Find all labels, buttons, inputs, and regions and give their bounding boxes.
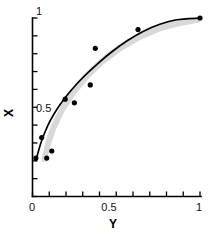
data-point xyxy=(49,148,54,153)
confidence-band-area xyxy=(42,18,200,162)
data-point xyxy=(88,82,93,87)
scatter-plot-svg: 1 0.5 0 0.5 1 X Y xyxy=(0,0,222,241)
data-point xyxy=(93,46,98,51)
x-axis-title: Y xyxy=(109,217,117,231)
data-point xyxy=(135,27,140,32)
data-point xyxy=(39,135,44,140)
data-point xyxy=(33,156,38,161)
x-axis-tick-label-1: 1 xyxy=(196,201,202,213)
data-point xyxy=(197,15,202,20)
data-point xyxy=(44,156,49,161)
y-axis-tick-label-1: 1 xyxy=(36,5,42,17)
y-axis-title: X xyxy=(2,109,16,117)
data-point xyxy=(63,97,68,102)
x-axis-tick-label-05: 0.5 xyxy=(101,201,116,213)
x-axis-tick-label-0: 0 xyxy=(29,201,35,213)
fitted-curve-line xyxy=(36,18,200,161)
data-point xyxy=(72,100,77,105)
chart-figure: 1 0.5 0 0.5 1 X Y xyxy=(0,0,222,241)
y-axis-tick-label-05: 0.5 xyxy=(36,102,51,114)
data-points-group xyxy=(33,15,202,160)
